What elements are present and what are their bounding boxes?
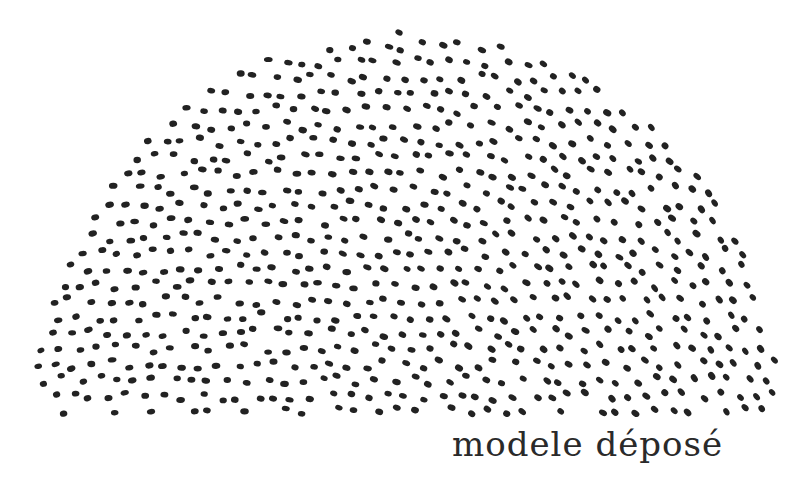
dot [295,253,303,259]
dot [295,189,303,195]
dot [202,313,211,320]
dot [149,222,157,229]
dot [495,267,504,276]
dot [603,324,613,334]
dot [342,300,351,309]
dot [357,90,366,97]
dot [648,153,658,163]
dot [398,392,407,399]
dot [414,235,422,242]
dot [257,309,265,315]
dot [420,76,429,84]
dot [37,347,46,355]
dot [304,330,313,337]
dot [727,311,736,321]
dot [424,152,433,159]
dot [699,331,709,340]
dot [379,332,389,340]
dot [207,278,216,286]
dot [423,380,433,389]
caption-text: modele déposé [452,424,723,464]
dot [477,237,487,246]
dot [564,331,574,341]
dot [160,392,168,398]
dot [242,379,251,386]
dot [324,234,333,241]
dot [460,245,469,253]
dot [634,157,643,166]
dot [529,293,538,301]
dot [473,294,482,303]
dot [231,396,240,403]
dot [357,56,366,64]
dot [50,299,59,306]
dot [166,247,174,254]
dot [627,344,637,354]
dot [143,137,152,145]
dot [224,377,231,383]
dot [351,155,360,162]
dot [412,150,421,159]
dot [545,108,555,117]
dots-group [34,28,779,418]
dot [221,89,229,96]
dot [368,124,377,131]
dot [252,109,260,115]
dot [198,166,208,173]
dot [347,390,356,399]
dot [475,140,484,148]
dot [206,253,215,259]
dot [477,46,487,55]
dot [104,395,112,402]
dot [655,260,665,270]
dot [588,294,598,304]
dot [236,70,244,77]
dot [62,294,71,301]
dot [330,317,340,325]
dot [487,173,497,182]
dot [513,77,523,87]
dot [133,157,141,163]
dot [282,349,291,355]
dot [169,120,178,128]
dot [548,141,559,151]
dot [607,124,618,135]
dot [274,234,283,241]
dot [553,378,563,387]
dot [646,184,655,193]
dot [641,391,651,401]
dot [83,394,92,402]
dot [54,317,63,324]
dot [673,266,683,276]
dot [158,363,167,370]
dot [195,134,204,141]
dot [313,317,321,323]
dot [627,189,636,199]
dot [504,57,514,66]
dot [333,125,342,134]
dot [83,267,93,275]
dot [544,263,555,273]
dot [220,398,227,404]
dot [497,379,506,387]
dot [79,378,88,386]
dot [282,187,291,194]
dot [551,324,561,334]
dot [634,220,644,230]
dot [602,108,613,118]
dot [331,89,339,96]
dot [150,150,159,157]
dot [252,302,260,308]
dot [176,138,184,144]
dot [486,314,495,323]
dot [141,393,149,399]
dot [687,184,697,194]
dot [579,347,589,356]
dot [671,314,681,323]
dot [708,216,717,226]
dot [652,372,662,382]
dot [623,393,633,402]
dot [201,391,208,397]
dot [532,135,541,143]
dot [403,265,412,273]
